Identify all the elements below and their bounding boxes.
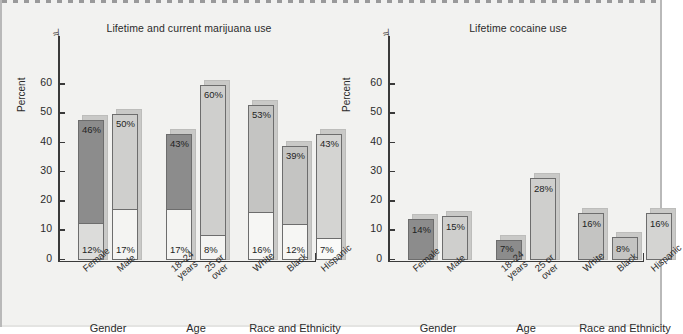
bar-value-label: 28% [534,183,553,194]
y-tick-label: 60 [40,76,52,88]
chart-panel-cocaine: Lifetime cocaine use Percent ≉ 010203040… [332,0,664,327]
y-tick: 50 [58,112,65,114]
y-tick: 60 [58,83,65,85]
bar-segment-lifetime[interactable]: 39% [283,147,307,225]
y-tick-label: 50 [370,105,382,117]
x-group-label: Age [166,322,226,334]
bar[interactable]: 46%12% [78,120,104,260]
bar-value-label-lifetime: 53% [252,109,271,120]
bar-group-item[interactable]: 28% [530,176,556,260]
y-tick: 20 [58,200,65,202]
y-axis-line-right [388,36,390,262]
y-tick-label: 40 [370,135,382,147]
bar-value-label-lifetime: 50% [116,118,135,129]
y-tick-label: 60 [370,76,382,88]
bar-value-label-current: 17% [116,244,135,255]
y-tick-label: 30 [40,164,52,176]
plot-area-left: ≉ 010203040506046%12%Female50%17%MaleGen… [58,36,316,262]
x-group-label: Age [496,322,556,334]
y-tick-label: 0 [46,252,52,264]
bar-value-label-lifetime: 39% [286,150,305,161]
chart-panel-marijuana: Lifetime and current marijuana use Perce… [2,0,342,327]
y-tick: 50 [388,112,395,114]
y-tick: 30 [58,171,65,173]
y-axis-line-left [58,36,60,262]
y-tick: 10 [388,229,395,231]
y-tick-label: 10 [40,222,52,234]
bar-segment-current[interactable]: 17% [113,210,137,259]
bar-group-item[interactable]: 60%8% [200,83,226,260]
y-tick: 30 [388,171,395,173]
bar-group-item[interactable]: 39%12% [282,144,308,260]
y-tick: 40 [58,142,65,144]
y-tick: 0 [388,259,395,261]
x-group-label: Gender [408,322,468,334]
bar-value-label-lifetime: 60% [204,89,223,100]
bar-value-label: 14% [412,224,431,235]
x-group-label: Gender [78,322,138,334]
bar-group-item[interactable]: 15% [442,214,468,260]
y-tick: 60 [388,83,395,85]
bar-segment-lifetime[interactable]: 50% [113,115,137,210]
bar-value-label: 15% [446,221,465,232]
y-tick: 0 [58,259,65,261]
x-group-label: Race and Ethnicity [578,322,672,334]
bar-segment-lifetime[interactable]: 60% [201,86,225,236]
y-tick-label: 0 [376,252,382,264]
y-tick: 20 [388,200,395,202]
y-tick-label: 50 [40,105,52,117]
x-axis-end-tick-right [643,253,645,262]
y-axis-label-left: Percent [16,78,27,112]
bar-group-item[interactable]: 46%12% [78,118,104,260]
y-tick-label: 10 [370,222,382,234]
bar-segment-lifetime[interactable]: 53% [249,106,273,213]
bar-value-label-lifetime: 46% [82,124,101,135]
plot-area-right: ≉ 010203040506014%Female15%MaleGender7%1… [388,36,644,262]
bar[interactable]: 43%17% [166,134,192,260]
bar[interactable]: 50%17% [112,114,138,260]
bar-value-label: 16% [582,218,601,229]
bar-segment-lifetime[interactable]: 43% [167,135,191,210]
y-tick: 10 [58,229,65,231]
bar-value-label: 16% [650,218,669,229]
bar[interactable]: 60%8% [200,85,226,260]
y-tick-label: 20 [370,193,382,205]
bar-group-item[interactable]: 50%17% [112,112,138,260]
bar-segment-lifetime[interactable]: 46% [79,121,103,225]
y-tick-label: 30 [370,164,382,176]
bar[interactable]: 15% [442,216,468,260]
y-tick-label: 20 [40,193,52,205]
x-group-label: Race and Ethnicity [248,322,342,334]
bar[interactable]: 53%16% [248,105,274,260]
y-tick: 40 [388,142,395,144]
y-axis-label-right: Percent [341,78,352,112]
y-tick-label: 40 [40,135,52,147]
bar[interactable]: 39%12% [282,146,308,260]
bar-value-label-lifetime: 43% [170,138,189,149]
bar-group-item[interactable]: 43%17% [166,132,192,260]
bar-group-item[interactable]: 53%16% [248,103,274,260]
bar[interactable]: 28% [530,178,556,260]
